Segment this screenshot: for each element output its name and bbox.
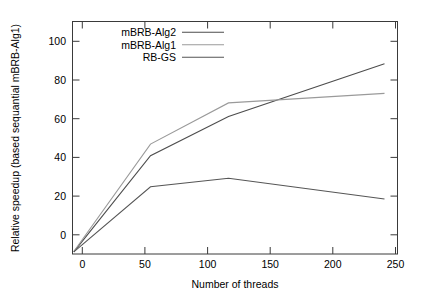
data-series-group — [74, 64, 385, 252]
x-tick-label-150: 150 — [261, 258, 279, 270]
legend-label-mbrb-alg1: mBRB-Alg1 — [121, 39, 176, 51]
x-tick-label-50: 50 — [139, 258, 151, 270]
y-tick-labels: 100 80 60 40 20 0 — [48, 35, 66, 241]
y-tick-label-80: 80 — [54, 74, 66, 86]
x-tick-label-0: 0 — [79, 258, 85, 270]
y-tick-label-40: 40 — [54, 151, 66, 163]
legend-label-mbrb-alg2: mBRB-Alg2 — [121, 26, 176, 38]
plot-border — [73, 22, 398, 255]
series-line-rb-gs — [74, 178, 385, 252]
series-line-mbrb-alg1 — [74, 93, 385, 251]
chart-legend: mBRB-Alg2 mBRB-Alg1 RB-GS — [121, 26, 224, 63]
y-tick-label-100: 100 — [48, 35, 66, 47]
y-axis-title: Relative speedup (based sequantial mBRB-… — [9, 24, 21, 252]
chart-canvas: 100 80 60 40 20 0 0 50 100 150 200 250 N… — [0, 0, 421, 305]
speedup-line-chart: 100 80 60 40 20 0 0 50 100 150 200 250 N… — [0, 0, 421, 305]
legend-label-rb-gs: RB-GS — [143, 51, 176, 63]
x-tick-labels: 0 50 100 150 200 250 — [79, 258, 404, 270]
plot-frame — [73, 22, 398, 255]
x-tick-label-100: 100 — [199, 258, 217, 270]
y-tick-label-60: 60 — [54, 113, 66, 125]
x-axis-title: Number of threads — [192, 278, 279, 290]
y-tick-label-20: 20 — [54, 190, 66, 202]
x-axis-ticks — [82, 22, 395, 255]
series-line-mbrb-alg2 — [74, 64, 385, 252]
y-tick-label-0: 0 — [60, 229, 66, 241]
x-tick-label-200: 200 — [324, 258, 342, 270]
y-axis-ticks — [73, 41, 398, 235]
x-tick-label-250: 250 — [387, 258, 405, 270]
